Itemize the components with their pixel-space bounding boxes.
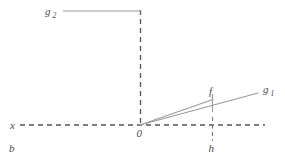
label-g2: g bbox=[45, 5, 51, 17]
label-x-axis: x bbox=[9, 119, 15, 131]
g1-ray-line bbox=[140, 93, 258, 125]
label-h: h bbox=[209, 142, 215, 154]
label-g2-subscript: 2 bbox=[53, 11, 57, 20]
label-f: f bbox=[209, 85, 214, 97]
label-g1: g bbox=[263, 83, 269, 95]
label-g1-subscript: 1 bbox=[271, 89, 275, 98]
figure-canvas: g 2 g 1 x b 0 f h bbox=[0, 0, 285, 163]
diagram-svg: g 2 g 1 x b 0 f h bbox=[0, 0, 285, 163]
label-origin: 0 bbox=[137, 127, 143, 139]
f-ray-line bbox=[140, 100, 213, 126]
label-b: b bbox=[9, 142, 15, 154]
